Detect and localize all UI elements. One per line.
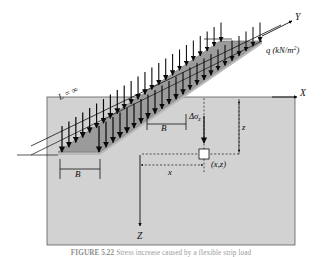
- figure-caption-text: Stress increase caused by a flexible str…: [116, 249, 251, 257]
- figure-caption: FIGURE 5.22 Stress increase caused by a …: [0, 248, 322, 257]
- depth-label: z: [241, 122, 246, 132]
- figure-container: Y X Z L = ∞ q (kN/m2): [0, 0, 322, 257]
- x-axis-group: X: [272, 88, 307, 98]
- point-coordinates-label: (x,z): [211, 159, 226, 169]
- width-bottom-label: B: [75, 169, 81, 179]
- y-axis-group: Y: [262, 12, 302, 36]
- y-axis-label: Y: [295, 12, 302, 22]
- soil-element-square: [199, 149, 209, 159]
- load-magnitude-label: q (kN/m2): [266, 45, 299, 55]
- width-mid-label: B: [161, 123, 167, 133]
- load-magnitude-group: q (kN/m2): [266, 45, 299, 55]
- z-axis-label: Z: [137, 231, 143, 241]
- strip-load-diagram: Y X Z L = ∞ q (kN/m2): [0, 0, 322, 257]
- x-axis-label: X: [299, 88, 307, 98]
- offset-label: x: [167, 167, 172, 177]
- y-axis-line: [262, 21, 292, 36]
- figure-number: FIGURE 5.22: [71, 249, 114, 257]
- load-q-text: q (kN/m: [266, 45, 293, 55]
- load-close-paren: ): [295, 45, 299, 55]
